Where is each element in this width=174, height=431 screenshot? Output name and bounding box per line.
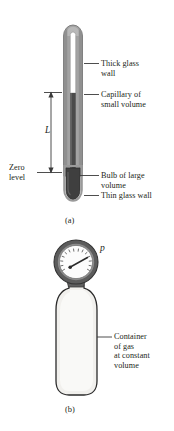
panel-a-thermometer <box>37 25 99 201</box>
label-bulb-line2: volume <box>101 181 126 190</box>
label-pressure-symbol: p <box>100 243 105 252</box>
label-thick-glass-wall-line2: wall <box>101 69 115 78</box>
pressure-gauge-needle-hub <box>68 265 72 269</box>
caption-panel-b: (b) <box>65 405 75 414</box>
caption-panel-a: (a) <box>65 216 74 225</box>
thermometer-wall-shade-left <box>64 29 67 176</box>
label-zero-level-line1: Zero <box>9 163 25 172</box>
gas-container-inner-sheen <box>60 290 93 391</box>
label-container-line3: at constant <box>114 351 150 360</box>
panel-b-gas-thermometer <box>54 240 112 395</box>
label-capillary-line2: small volume <box>101 100 146 109</box>
label-thin-glass-wall: Thin glass wall <box>101 191 152 200</box>
thermometer-and-gas-thermometer-figure <box>0 0 174 431</box>
label-bulb-line1: Bulb of large <box>101 171 145 180</box>
label-container-line4: volume <box>114 361 139 370</box>
pressure-gauge-face <box>59 245 92 278</box>
label-zero-level-line2: level <box>9 173 25 182</box>
label-capillary-line1: Capillary of <box>101 90 141 99</box>
mercury-column-highlight <box>70 93 72 176</box>
label-dimension-L: L <box>45 126 50 135</box>
capillary-bore-empty <box>70 32 75 93</box>
label-thick-glass-wall-line1: Thick glass <box>101 59 139 68</box>
label-container-line1: Container <box>114 332 147 341</box>
thermometer-wall-shade-right <box>79 29 82 176</box>
label-container-line2: of gas <box>114 342 134 351</box>
